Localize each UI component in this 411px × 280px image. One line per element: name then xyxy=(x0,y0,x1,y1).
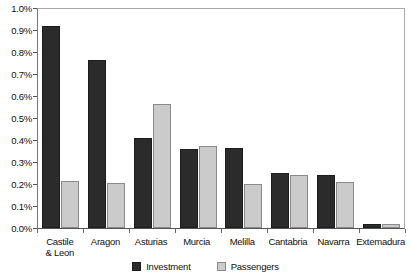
bar-passengers[interactable] xyxy=(336,182,354,228)
bar-passengers[interactable] xyxy=(290,175,308,228)
bar-investment[interactable] xyxy=(317,175,335,228)
plot-wrapper: 1.0%0.9%0.8%0.7%0.6%0.5%0.4%0.3%0.2%0.1%… xyxy=(0,0,411,236)
bar-investment[interactable] xyxy=(134,138,152,228)
bar-passengers[interactable] xyxy=(153,104,171,228)
bar-investment[interactable] xyxy=(225,148,243,228)
x-axis-tick-mark xyxy=(267,229,268,233)
x-axis-category-label: Aragon xyxy=(83,234,129,264)
x-axis-category-label-line: Castile xyxy=(37,236,83,247)
x-axis-tick-mark xyxy=(313,229,314,233)
x-axis-category-label-line: Navarra xyxy=(311,236,357,247)
bar-group xyxy=(84,9,130,228)
y-axis-tick-label: 0.2% xyxy=(11,180,32,190)
legend-label: Investment xyxy=(146,262,190,272)
bar-group xyxy=(221,9,267,228)
x-axis-tick-mark xyxy=(83,229,84,233)
y-axis-tick-label: 0.1% xyxy=(11,202,32,212)
bar-group xyxy=(175,9,221,228)
legend-item[interactable]: Passengers xyxy=(217,262,279,272)
bar-group xyxy=(130,9,176,228)
bar-chart: 1.0%0.9%0.8%0.7%0.6%0.5%0.4%0.3%0.2%0.1%… xyxy=(0,0,411,280)
x-axis-labels: Castile& LeonAragonAsturiasMurciaMelilla… xyxy=(37,234,405,264)
x-axis-tick-mark xyxy=(175,229,176,233)
bar-investment[interactable] xyxy=(363,224,381,228)
bar-investment[interactable] xyxy=(271,173,289,228)
x-axis-category-label-line: Aragon xyxy=(83,236,129,247)
x-axis-tick-mark xyxy=(359,229,360,233)
plot-area xyxy=(37,8,405,229)
bar-passengers[interactable] xyxy=(107,183,125,228)
bar-passengers[interactable] xyxy=(61,181,79,228)
bar-group xyxy=(313,9,359,228)
bar-passengers[interactable] xyxy=(199,146,217,229)
x-axis-category-label-line: Murcia xyxy=(174,236,220,247)
y-axis-tick-label: 0.3% xyxy=(11,158,32,168)
y-axis-tick-label: 0.6% xyxy=(11,92,32,102)
y-axis-labels: 1.0%0.9%0.8%0.7%0.6%0.5%0.4%0.3%0.2%0.1%… xyxy=(0,8,36,229)
y-axis-tick-label: 0.8% xyxy=(11,48,32,58)
y-axis-tick-label: 0.4% xyxy=(11,136,32,146)
x-axis-category-label: Extemadura xyxy=(356,234,405,264)
x-axis-category-label-line: Melilla xyxy=(219,236,265,247)
x-axis-category-label: Navarra xyxy=(311,234,357,264)
y-axis-tick-label: 0.5% xyxy=(11,114,32,124)
y-axis-tick-label: 1.0% xyxy=(11,4,32,14)
bar-investment[interactable] xyxy=(88,60,106,228)
x-axis-category-label-line: Extemadura xyxy=(356,236,405,247)
x-axis-category-label: Cantabria xyxy=(265,234,311,264)
x-axis-category-label-line: Asturias xyxy=(128,236,174,247)
x-axis-tick-mark xyxy=(129,229,130,233)
bar-group xyxy=(267,9,313,228)
bars-layer xyxy=(38,9,404,228)
chart-legend: InvestmentPassengers xyxy=(0,262,411,272)
x-axis-tick-mark xyxy=(405,229,406,233)
x-axis-category-label: Murcia xyxy=(174,234,220,264)
legend-item[interactable]: Investment xyxy=(132,262,190,272)
x-axis-category-label-line: Cantabria xyxy=(265,236,311,247)
bar-investment[interactable] xyxy=(180,149,198,228)
y-axis-tick-label: 0.7% xyxy=(11,70,32,80)
bar-investment[interactable] xyxy=(42,26,60,228)
bar-passengers[interactable] xyxy=(244,184,262,228)
bar-passengers[interactable] xyxy=(382,224,400,228)
x-axis-category-label-line: & Leon xyxy=(37,247,83,258)
legend-swatch-icon xyxy=(217,262,226,271)
y-axis-tick-label: 0.9% xyxy=(11,26,32,36)
legend-swatch-icon xyxy=(132,262,141,271)
bar-group xyxy=(38,9,84,228)
x-axis-tick-mark xyxy=(37,229,38,233)
bar-group xyxy=(358,9,404,228)
y-axis-tick-label: 0.0% xyxy=(11,224,32,234)
x-axis-category-label: Asturias xyxy=(128,234,174,264)
x-axis-category-label: Castile& Leon xyxy=(37,234,83,264)
x-axis-tick-mark xyxy=(221,229,222,233)
legend-label: Passengers xyxy=(231,262,279,272)
x-axis-category-label: Melilla xyxy=(219,234,265,264)
